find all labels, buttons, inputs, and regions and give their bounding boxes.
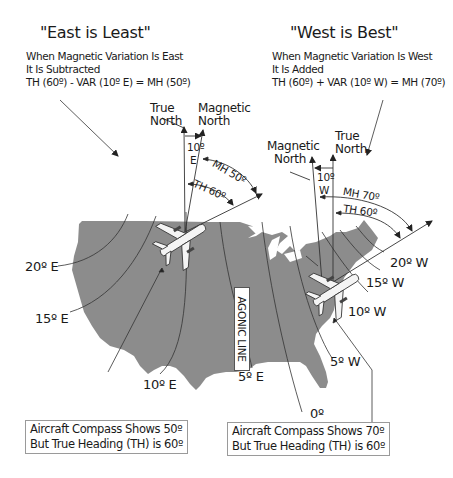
east-variation-direction: E (190, 155, 196, 166)
magnetic-variation-diagram: "East is Least" When Magnetic Variation … (0, 0, 453, 478)
west-magnetic-north-label-line2: North (274, 153, 306, 166)
leader-arrow-west (367, 100, 383, 155)
east-formula: TH (60º) - VAR (10º E) = MH (50º) (26, 76, 190, 89)
west-callout-line2: But True Heading (TH) is 60º (232, 439, 385, 454)
isogonic-label-20e: 20º E (25, 260, 59, 273)
east-magnetic-north-label-line2: North (198, 115, 230, 128)
west-true-north-label-line2: North (335, 143, 367, 156)
isogonic-label-20w: 20º W (390, 256, 428, 269)
east-is-least-title: "East is Least" (40, 25, 151, 41)
isogonic-label-15w: 15º W (366, 276, 404, 289)
west-formula: TH (60º) + VAR (10º W) = MH (70º) (272, 76, 445, 89)
east-note-line1: When Magnetic Variation Is East (26, 50, 183, 63)
west-note-line1: When Magnetic Variation Is West (272, 50, 432, 63)
isogonic-label-0: 0º (310, 407, 324, 420)
east-variation-value: 10º (187, 142, 204, 153)
east-callout-line2: But True Heading (TH) is 60º (30, 437, 183, 452)
east-note-line2: It Is Subtracted (26, 63, 100, 76)
true-north-arrow-east (184, 127, 185, 232)
isogonic-label-10e: 10º E (143, 378, 177, 391)
isogonic-label-10w: 10º W (348, 305, 386, 318)
west-callout-line1: Aircraft Compass Shows 70º (232, 424, 385, 439)
west-callout-box: Aircraft Compass Shows 70º But True Head… (227, 422, 390, 456)
isogonic-label-5w: 5º W (330, 355, 360, 368)
east-true-north-label-line2: North (150, 115, 182, 128)
agonic-line-label: AGONIC LINE (234, 287, 250, 371)
isogonic-label-5e: 5º E (238, 370, 264, 383)
west-variation-value: 10º (317, 172, 334, 183)
leader-arrow-east (60, 100, 118, 156)
west-note-line2: It Is Added (272, 63, 324, 76)
isogonic-label-15e: 15º E (35, 312, 69, 325)
east-callout-line1: Aircraft Compass Shows 50º (30, 422, 183, 437)
east-callout-box: Aircraft Compass Shows 50º But True Head… (25, 420, 188, 454)
west-variation-direction: W (319, 185, 329, 196)
west-is-best-title: "West is Best" (290, 25, 398, 41)
